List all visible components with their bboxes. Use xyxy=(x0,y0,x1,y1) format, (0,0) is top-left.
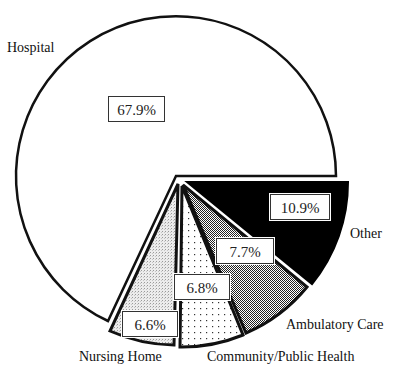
value-other: 10.9% xyxy=(270,194,330,220)
label-community-public-health: Community/Public Health xyxy=(207,349,354,365)
value-community-public-health: 6.8% xyxy=(174,274,230,300)
label-hospital: Hospital xyxy=(7,40,54,56)
pie-chart xyxy=(0,0,410,370)
label-ambulatory-care: Ambulatory Care xyxy=(286,317,384,333)
value-ambulatory-care: 7.7% xyxy=(216,238,274,264)
label-nursing-home: Nursing Home xyxy=(79,349,162,365)
label-other: Other xyxy=(350,226,382,242)
value-hospital: 67.9% xyxy=(108,96,165,122)
value-nursing-home: 6.6% xyxy=(122,311,178,337)
